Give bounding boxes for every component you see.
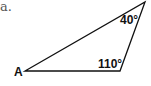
angle-top-label: 40° — [120, 13, 138, 27]
angle-bottom-right-label: 110° — [98, 57, 122, 71]
vertex-a-label: A — [14, 65, 23, 79]
